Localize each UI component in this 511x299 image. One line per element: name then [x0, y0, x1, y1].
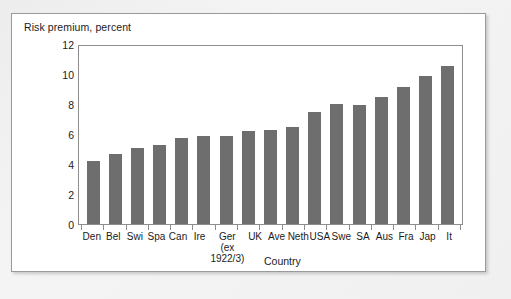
- bar-usa[interactable]: [308, 112, 321, 225]
- bar-slot: [437, 46, 459, 224]
- bar-slot: [370, 46, 392, 224]
- bar-swe[interactable]: [330, 104, 343, 224]
- y-axis-tick-label: 4: [52, 159, 74, 171]
- bar-slot: [126, 46, 148, 224]
- x-axis-tick: [148, 225, 149, 230]
- bar-sa[interactable]: [353, 105, 366, 224]
- y-axis-tick-label: 12: [52, 39, 74, 51]
- x-axis-label-text: Ave: [266, 231, 288, 242]
- bar-slot: [104, 46, 126, 224]
- x-axis-label-swe: Swe: [331, 231, 353, 264]
- x-axis-label-text: SA: [352, 231, 374, 242]
- bar-ire[interactable]: [197, 136, 210, 224]
- x-axis-label-jap: Jap: [417, 231, 439, 264]
- y-axis-tick-label: 10: [52, 69, 74, 81]
- x-axis-label-text: UK: [244, 231, 266, 242]
- x-axis-tick: [393, 225, 394, 230]
- x-axis-label-bel: Bel: [103, 231, 125, 264]
- x-axis-label-text: Ger: [210, 231, 244, 242]
- x-axis-label-den: Den: [81, 231, 103, 264]
- bar-slot: [193, 46, 215, 224]
- bar-slot: [259, 46, 281, 224]
- x-axis-title: Country: [264, 255, 301, 267]
- x-axis-label-text: Can: [167, 231, 189, 242]
- x-axis-tick: [304, 225, 305, 230]
- y-axis-labels: 024681012: [48, 45, 74, 225]
- x-axis-tick: [103, 225, 104, 230]
- bar-bel[interactable]: [109, 154, 122, 225]
- x-axis-tick: [81, 225, 82, 230]
- bar-neth[interactable]: [286, 127, 299, 224]
- x-axis-tick: [349, 225, 350, 230]
- x-axis-tick: [415, 225, 416, 230]
- x-axis-tick: [259, 225, 260, 230]
- y-axis-tick-label: 6: [52, 129, 74, 141]
- bar-it[interactable]: [441, 66, 454, 224]
- bar-slot: [282, 46, 304, 224]
- bar-slot: [237, 46, 259, 224]
- x-axis-label-text: Neth: [287, 231, 309, 242]
- x-axis-label-sa: SA: [352, 231, 374, 264]
- x-axis-label-text: Ire: [189, 231, 211, 242]
- bar-slot: [304, 46, 326, 224]
- x-axis-tick: [237, 225, 238, 230]
- bar-slot: [82, 46, 104, 224]
- chart-title: Risk premium, percent: [24, 21, 131, 33]
- x-axis-label-uk: UK: [244, 231, 266, 264]
- plot-area: [78, 45, 463, 225]
- x-axis-label-can: Can: [167, 231, 189, 264]
- bar-aus[interactable]: [375, 97, 388, 225]
- x-axis-label-ire: Ire: [189, 231, 211, 264]
- x-axis-tick: [192, 225, 193, 230]
- bar-den[interactable]: [87, 161, 100, 224]
- bar-slot: [326, 46, 348, 224]
- x-axis-label-aus: Aus: [374, 231, 396, 264]
- x-axis-label-text: Bel: [103, 231, 125, 242]
- bar-jap[interactable]: [419, 76, 432, 225]
- x-axis-tick: [126, 225, 127, 230]
- x-axis-label-text: Aus: [374, 231, 396, 242]
- x-axis-label-text: Fra: [395, 231, 417, 242]
- x-axis-tick: [170, 225, 171, 230]
- x-axis-tick: [326, 225, 327, 230]
- bar-can[interactable]: [175, 138, 188, 224]
- bar-slot: [415, 46, 437, 224]
- bar-spa[interactable]: [153, 145, 166, 225]
- x-axis-label-text: Den: [81, 231, 103, 242]
- x-axis-label-swi: Swi: [124, 231, 146, 264]
- bar-uk[interactable]: [242, 131, 255, 224]
- bar-slot: [215, 46, 237, 224]
- y-axis-tick-label: 0: [52, 219, 74, 231]
- x-axis-label-text: Swi: [124, 231, 146, 242]
- bar-ger[interactable]: [220, 136, 233, 224]
- x-axis-label-fra: Fra: [395, 231, 417, 264]
- x-axis-label-spa: Spa: [146, 231, 168, 264]
- x-axis-label-text: Swe: [331, 231, 353, 242]
- bar-series: [79, 46, 462, 224]
- x-axis-label-text: USA: [309, 231, 331, 242]
- x-axis-ticks: [78, 225, 463, 230]
- x-axis-tick: [215, 225, 216, 230]
- y-axis-tick-label: 2: [52, 189, 74, 201]
- bar-slot: [392, 46, 414, 224]
- y-axis-tick-label: 8: [52, 99, 74, 111]
- figure-card: Risk premium, percent 024681012 DenBelSw…: [11, 13, 486, 272]
- x-axis-label-ger: Ger(ex1922/3): [210, 231, 244, 264]
- x-axis-label-usa: USA: [309, 231, 331, 264]
- x-axis-sublabel-text: 1922/3): [210, 253, 244, 264]
- x-axis-label-text: Spa: [146, 231, 168, 242]
- bar-swi[interactable]: [131, 148, 144, 225]
- x-axis-label-it: It: [438, 231, 460, 264]
- x-axis-tick: [282, 225, 283, 230]
- x-axis-tick: [438, 225, 439, 230]
- x-axis-tick: [460, 225, 461, 230]
- bar-slot: [348, 46, 370, 224]
- bar-ave[interactable]: [264, 130, 277, 225]
- x-axis-label-text: Jap: [417, 231, 439, 242]
- x-axis-tick: [371, 225, 372, 230]
- bar-slot: [171, 46, 193, 224]
- x-axis-sublabel-text: (ex: [210, 242, 244, 253]
- bar-slot: [149, 46, 171, 224]
- bar-fra[interactable]: [397, 87, 410, 224]
- figure-page: Risk premium, percent 024681012 DenBelSw…: [0, 0, 511, 299]
